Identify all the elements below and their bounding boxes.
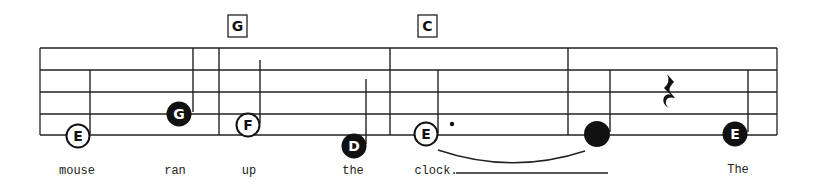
note-d: D xyxy=(342,134,367,159)
music-staff-score: G C E G F D E E xyxy=(0,0,816,185)
note-e-2: E xyxy=(723,122,748,147)
chord-label: G xyxy=(232,18,244,34)
note-letter: E xyxy=(73,128,83,144)
chord-symbol-g: G xyxy=(228,15,247,37)
note-letter: G xyxy=(173,106,185,122)
chord-symbol-c: C xyxy=(418,15,437,37)
note-e-1: E xyxy=(67,125,90,148)
lyric-word: up xyxy=(242,164,256,178)
lyrics: mouse ran up the clock. The xyxy=(59,163,749,178)
lyric-word: The xyxy=(727,163,749,177)
chord-label: C xyxy=(422,18,432,34)
lyric-word: mouse xyxy=(59,164,95,178)
note-letter: E xyxy=(421,126,431,142)
augmentation-dot xyxy=(450,122,454,126)
lyric-word: clock. xyxy=(414,164,457,178)
lyric-word: the xyxy=(342,164,364,178)
note-g: G xyxy=(167,102,192,127)
lyric-word: ran xyxy=(164,164,186,178)
staff-lines xyxy=(40,48,777,135)
note-letter: D xyxy=(348,138,360,154)
note-letter: F xyxy=(243,117,253,133)
note-letter: E xyxy=(730,126,740,142)
tie-arc xyxy=(438,150,585,163)
note-f: F xyxy=(237,114,260,137)
note-e-dotted: E xyxy=(415,122,455,146)
quarter-rest-icon xyxy=(663,74,675,108)
note-tied-filled xyxy=(584,121,610,147)
